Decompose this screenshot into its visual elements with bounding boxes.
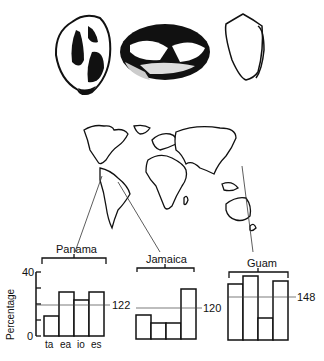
figure-canvas (0, 0, 324, 361)
ref-label-guam: 148 (297, 292, 315, 303)
y-tick-40: 40 (22, 267, 34, 278)
x-label-io: io (77, 340, 85, 350)
chart-panama (36, 254, 110, 336)
chart-guam (228, 268, 296, 340)
world-map-icon (84, 125, 256, 230)
y-axis-label: Percentage (5, 289, 16, 340)
ref-label-panama: 122 (112, 300, 130, 311)
chart-jamaica (136, 264, 202, 339)
x-label-ta: ta (45, 340, 53, 350)
x-label-es: es (91, 340, 102, 350)
chart-title-panama: Panama (56, 244, 97, 255)
chart-title-jamaica: Jamaica (146, 254, 187, 265)
shell-3-icon (226, 14, 264, 80)
y-tick-0: 0 (27, 331, 33, 342)
ref-label-jamaica: 120 (203, 303, 221, 314)
shell-2-icon (120, 24, 210, 80)
shell-1-icon (56, 16, 110, 95)
chart-title-guam: Guam (247, 258, 277, 269)
x-label-ea: ea (60, 340, 71, 350)
